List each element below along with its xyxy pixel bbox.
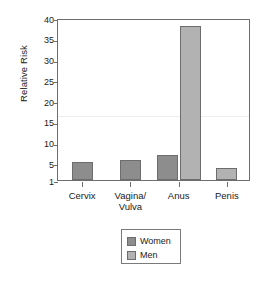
x-axis-tick-label: Penis — [194, 190, 260, 201]
legend-item-men: Men — [127, 248, 180, 262]
y-axis-tick-label: 5 — [35, 161, 54, 170]
x-axis-tick-mark — [130, 182, 131, 187]
y-axis-tick-label: 15 — [35, 119, 54, 128]
y-axis-title: Relative Risk — [18, 19, 29, 129]
bar-men-3 — [216, 168, 237, 180]
y-axis-tick-label: 20 — [35, 99, 54, 108]
bar-women-2 — [157, 155, 178, 180]
y-axis-tick-label: 40 — [35, 16, 54, 25]
bar-women-1 — [120, 160, 141, 180]
y-axis-tick-mark — [54, 62, 58, 63]
x-axis-tick-mark — [227, 182, 228, 187]
x-axis-tick-label-line: Vulva — [97, 201, 163, 212]
y-axis-tick-mark — [54, 103, 58, 104]
legend-item-women: Women — [127, 234, 180, 248]
y-axis-tick-mark — [54, 124, 58, 125]
faint-gridline — [58, 116, 249, 117]
bar-men-2 — [180, 26, 201, 180]
x-axis-tick-label-line: Penis — [194, 190, 260, 201]
bar-women-0 — [72, 162, 93, 180]
legend-label-women: Women — [140, 237, 171, 246]
chart-legend: Women Men — [121, 229, 181, 264]
x-axis-tick-mark — [82, 182, 83, 187]
legend-label-men: Men — [140, 251, 158, 260]
y-axis-tick-mark — [54, 41, 58, 42]
y-axis-tick-mark — [54, 165, 58, 166]
y-axis-tick-label: 30 — [35, 57, 54, 66]
legend-swatch-women — [127, 237, 136, 246]
y-axis-tick-label: 35 — [35, 36, 54, 45]
y-axis-tick-mark — [54, 82, 58, 83]
plot-area: 1510152025303540CervixVagina/VulvaAnusPe… — [57, 19, 250, 181]
y-axis-tick-label: 10 — [35, 140, 54, 149]
y-axis-tick-mark — [54, 182, 58, 183]
y-axis-tick-label: 1 — [35, 178, 54, 187]
y-axis-tick-mark — [54, 145, 58, 146]
y-axis-tick-label: 25 — [35, 78, 54, 87]
x-axis-tick-mark — [179, 182, 180, 187]
legend-swatch-men — [127, 251, 136, 260]
y-axis-tick-mark — [54, 20, 58, 21]
